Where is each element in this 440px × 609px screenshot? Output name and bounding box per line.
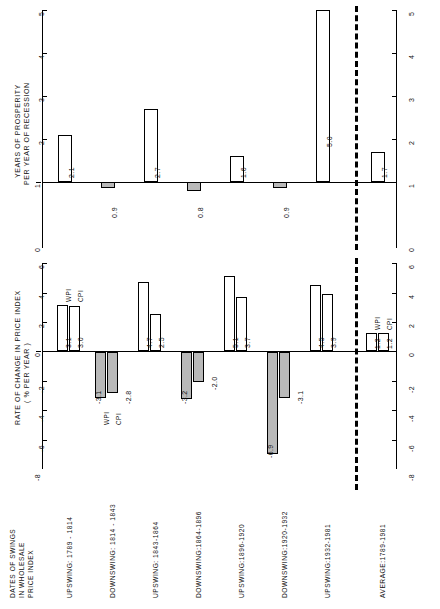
mid-bar-value-wpi-8: 1.2 (374, 338, 381, 349)
mid-ytick-label-0-right: 0 (408, 353, 415, 357)
top-bar-6 (273, 182, 287, 188)
top-ytick-label-2-left: 2 (38, 141, 45, 145)
top-ytick-label-2-right: 2 (408, 141, 415, 145)
mid-ytick-label-0-left: 0 (34, 353, 41, 357)
top-bar-label-4: 0.8 (197, 207, 204, 218)
mid-bar-value-cpi-6: -3.1 (297, 390, 304, 404)
top-ytick-label-5-left: 5 (38, 12, 45, 16)
mid-bar-wpi-6 (267, 352, 278, 454)
top-ytick-label-0-left: 0 (34, 248, 41, 252)
mid-ytick-neg2-right (392, 381, 397, 382)
top-ytick-label-4-left: 4 (38, 55, 45, 59)
mid-ytick-label-neg4-right: -4 (408, 415, 415, 422)
top-bar-label-1: 2.1 (68, 167, 75, 178)
mid-ytick-6-right (392, 263, 397, 264)
mid-ytick-label-neg8-right: -8 (408, 474, 415, 481)
mid-bar-cpi-2 (107, 352, 118, 393)
mid-bar-value-cpi-7: 3.9 (330, 337, 337, 348)
top-bar-2 (101, 182, 115, 188)
top-bar-label-6: 0.9 (283, 207, 290, 218)
top-ytick-4-right (392, 53, 397, 54)
mid-bar-value-cpi-3: 2.5 (158, 337, 165, 348)
mid-ytick-label-2-left: 2 (38, 324, 45, 328)
mid-ytick-label-6-right: 6 (408, 265, 415, 269)
mid-ytick-label-neg4-left: -4 (38, 415, 45, 422)
mid-ytick-neg2-left (42, 381, 47, 382)
category-axis-caption-line3: PRICE INDEX (26, 529, 35, 598)
mid-ytick-label-4-left: 4 (38, 295, 45, 299)
mid-ytick-neg4-right (392, 410, 397, 411)
top-bar-label-5: 1.6 (240, 167, 247, 178)
mid-ytick-label-neg6-left: -6 (38, 445, 45, 452)
top-ytick-2-right (392, 139, 397, 140)
mid-bar-value-wpi-6: -6.9 (267, 444, 274, 458)
mid-ytick-label-neg8-left: -8 (34, 474, 41, 481)
top-ytick-label-4-right: 4 (408, 55, 415, 59)
mid-ytick-label-neg6-right: -6 (408, 445, 415, 452)
top-right-axis-spine (396, 10, 397, 248)
mid-bar-cpi-4 (193, 352, 204, 382)
mid-series-label-wpi-2: WPI (103, 411, 110, 425)
mid-average-separator (355, 258, 358, 490)
category-label-3: UPSWING: 1843-1864 (152, 521, 159, 598)
category-label-6: DOWNSWING:1920-1932 (281, 511, 288, 598)
mid-bar-value-cpi-5: 3.7 (244, 337, 251, 348)
mid-ytick-neg6-left (42, 440, 47, 441)
mid-ytick-neg6-right (392, 440, 397, 441)
mid-series-label-cpi-2: CPI (115, 413, 122, 425)
mid-ytick-label-6-left: 6 (38, 265, 45, 269)
mid-ylabel-line1: RATE OF CHANGE IN PRICE INDEX (14, 290, 21, 425)
mid-bar-value-cpi-8: 1.2 (386, 338, 393, 349)
mid-bar-value-cpi-4: -2.0 (211, 376, 218, 390)
top-ytick-5-right (392, 10, 397, 11)
mid-series-label-wpi-1: WPI (65, 288, 72, 302)
category-label-5: UPSWING:1896-1920 (238, 524, 245, 598)
mid-ytick-label-neg2-left: -2 (38, 386, 45, 393)
top-bar-label-3: 2.7 (154, 167, 161, 178)
top-bar-4 (187, 182, 201, 191)
mid-bar-cpi-6 (279, 352, 290, 398)
mid-ytick-neg4-left (42, 410, 47, 411)
mid-ytick-label-2-right: 2 (408, 324, 415, 328)
top-ylabel-line2: PER YEAR OF RECESSION (23, 82, 30, 185)
mid-bar-value-wpi-2: -3.1 (95, 390, 102, 404)
category-label-2: DOWNSWING: 1814 - 1843 (109, 504, 116, 598)
mid-bar-value-wpi-4: -3.2 (181, 390, 188, 404)
figure-canvas: YEARS OF PROSPERITY PER YEAR OF RECESSIO… (0, 0, 440, 609)
mid-ytick-label-neg2-right: -2 (408, 386, 415, 393)
mid-ylabel-line2: ( % PER YEAR ) (23, 343, 30, 403)
mid-bar-value-wpi-7: 4.5 (318, 337, 325, 348)
top-average-separator (355, 6, 358, 250)
category-label-1: UPSWING: 1789 - 1814 (66, 517, 73, 598)
mid-bar-value-wpi-5: 5.1 (232, 337, 239, 348)
category-axis-caption: DATES OF SWINGS IN WHOLESALE PRICE INDEX (8, 529, 35, 598)
category-label-4: DOWNSWING:1864-1896 (195, 511, 202, 598)
top-bar-7 (316, 10, 330, 182)
top-left-axis-spine (42, 10, 43, 248)
top-ytick-label-3-left: 3 (38, 98, 45, 102)
mid-ytick-4-right (392, 293, 397, 294)
mid-bar-value-wpi-1: 3.1 (65, 337, 72, 348)
top-ytick-label-1-left: 1 (34, 184, 41, 188)
top-ytick-3-right (392, 96, 397, 97)
top-bar-label-8: 1.7 (381, 167, 388, 178)
mid-series-label-cpi-1: CPI (77, 290, 84, 302)
mid-series-label-cpi-8: CPI (386, 318, 393, 330)
mid-bar-value-wpi-3: 4.7 (146, 337, 153, 348)
top-baseline (42, 182, 397, 183)
mid-ytick-0-right (392, 351, 397, 352)
top-ylabel-line1: YEARS OF PROSPERITY (14, 84, 21, 178)
mid-bar-value-cpi-2: -2.8 (125, 390, 132, 404)
mid-bar-value-cpi-1: 3.0 (77, 337, 84, 348)
top-ytick-1-right (392, 182, 397, 183)
category-axis-caption-line2: IN WHOLESALE (17, 529, 26, 598)
top-ytick-label-0-right: 0 (408, 248, 415, 252)
category-label-7: UPSWING:1932-1981 (324, 524, 331, 598)
category-axis-caption-line1: DATES OF SWINGS (8, 529, 17, 598)
top-bar-label-2: 0.9 (111, 207, 118, 218)
mid-ytick-label-4-right: 4 (408, 295, 415, 299)
top-ytick-label-5-right: 5 (408, 12, 415, 16)
top-bar-label-7: 5.0 (326, 136, 333, 147)
category-label-8: AVERAGE:1789-1981 (379, 524, 386, 598)
top-ytick-label-3-right: 3 (408, 98, 415, 102)
